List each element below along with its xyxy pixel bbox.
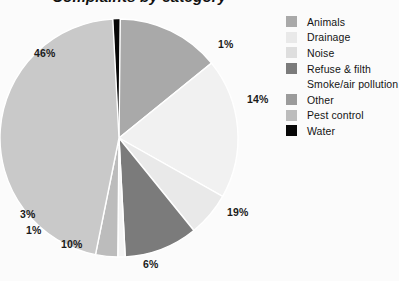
legend-item-label: Other	[307, 94, 334, 106]
legend-item-label: Noise	[307, 47, 334, 59]
legend-item[interactable]: Animals	[286, 14, 399, 30]
pie-slice[interactable]: Noise 46%	[0, 19, 119, 254]
legend-item-label: Drainage	[307, 31, 350, 43]
legend-item-label: Refuse & filth	[307, 63, 371, 75]
legend-item[interactable]: Pest control	[286, 108, 399, 124]
legend-item[interactable]: Drainage	[286, 30, 399, 46]
pie-chart: Water 1%Animals 14%Smoke/air pollution 1…	[0, 9, 272, 281]
pie-slice-percentage: 3%	[20, 208, 36, 220]
legend-color-swatch	[286, 63, 297, 74]
legend-item-label: Smoke/air pollution	[307, 78, 398, 90]
legend-color-swatch	[286, 79, 297, 90]
pie-slice-percentage: 1%	[218, 38, 234, 50]
legend-item[interactable]: Refuse & filth	[286, 61, 399, 77]
legend-color-swatch	[286, 32, 297, 43]
legend-item[interactable]: Smoke/air pollution	[286, 76, 399, 92]
page-title: Complaints by category	[52, 0, 226, 5]
legend-color-swatch	[286, 16, 297, 27]
legend-color-swatch	[286, 47, 297, 58]
pie-slice-percentage: 19%	[227, 206, 249, 218]
legend-color-swatch	[286, 125, 297, 136]
page-title-strip: Complaints by category	[0, 0, 399, 9]
legend-color-swatch	[286, 110, 297, 121]
legend-item[interactable]: Other	[286, 92, 399, 108]
chart-legend: AnimalsDrainageNoiseRefuse & filthSmoke/…	[286, 14, 399, 139]
legend-item[interactable]: Water	[286, 123, 399, 139]
chart-screenshot: Complaints by category Water 1%Animals 1…	[0, 0, 399, 281]
pie-slice-percentage: 10%	[61, 238, 83, 250]
pie-slice-percentage: 14%	[247, 93, 269, 105]
pie-slice-percentage: 6%	[143, 258, 159, 270]
pie-slice-percentage: 46%	[34, 47, 56, 59]
pie-slice-percentage: 1%	[26, 224, 42, 236]
legend-color-swatch	[286, 94, 297, 105]
legend-item-label: Animals	[307, 16, 345, 28]
legend-item-label: Pest control	[307, 109, 364, 121]
legend-item[interactable]: Noise	[286, 45, 399, 61]
legend-item-label: Water	[307, 125, 335, 137]
